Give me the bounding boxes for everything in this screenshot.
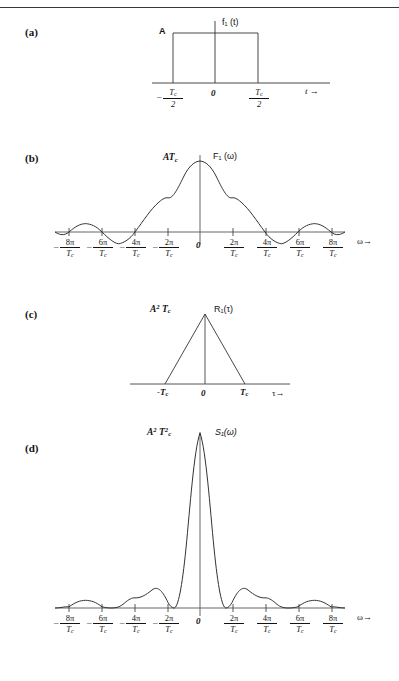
tick-numerator: 4π [257,614,277,623]
panel-b-x-axis-label: ω→ [357,236,372,246]
panel-d-tick-6pi-tc: 6π Tc [290,614,310,635]
tick-denominator: Tc [60,249,80,259]
tick-numerator: 2π [159,238,179,247]
panel-a-plot [0,0,399,140]
panel-b-tick--6pi-tc: – 6π Tc [93,238,113,259]
panel-a: (a) f₁ (t) A – Tc 2 0 Tc [0,0,399,140]
panel-a-tick-pos-half-tc: Tc 2 [249,88,269,109]
tick-denominator: Tc [93,625,113,635]
panel-d-x-axis-label: ω→ [357,612,372,622]
panel-b-tick-8pi-tc: 8π Tc [323,238,343,259]
minus-sign: – [157,92,162,101]
panel-b-amplitude-label: ATc [163,153,178,163]
panel-a-curve-label: f₁ (t) [222,18,239,27]
tick-numerator: 6π [93,614,113,623]
tick-numerator: 4π [126,614,146,623]
tick-denominator: Tc [257,625,277,635]
tick-denominator: Tc [159,249,179,259]
panel-d-zero-label: 0 [196,616,201,626]
panel-b-tick--4pi-tc: – 4π Tc [126,238,146,259]
tick-denominator: Tc [60,625,80,635]
tick-denominator: Tc [323,625,343,635]
panel-b-tick-6pi-tc: 6π Tc [290,238,310,259]
tick-numerator: 6π [290,614,310,623]
panel-b-tick--8pi-tc: – 8π Tc [60,238,80,259]
minus-sign: – [153,242,158,251]
panel-a-tick-neg-half-tc: – Tc 2 [163,88,183,109]
panel-b-tick-2pi-tc: 2π Tc [224,238,244,259]
minus-sign: – [87,242,92,251]
tick-denominator: Tc [290,249,310,259]
panel-b-tick--2pi-tc: – 2π Tc [159,238,179,259]
minus-sign: – [87,618,92,627]
panel-c-tick-neg-tc: -Tc [157,388,168,398]
panel-d-amplitude-label: A2 T2c [147,427,171,438]
figure-root: (a) f₁ (t) A – Tc 2 0 Tc [0,0,399,681]
tick-denominator: 2 [249,100,269,109]
tick-denominator: Tc [290,625,310,635]
panel-b-plot [0,140,399,300]
tick-numerator: 6π [290,238,310,247]
panel-d-tick-8pi-tc: 8π Tc [323,614,343,635]
panel-d-tick-4pi-tc: 4π Tc [257,614,277,635]
tick-numerator: 8π [60,614,80,623]
tick-numerator: Tc [249,88,269,98]
tick-numerator: 8π [60,238,80,247]
panel-c-amplitude-label: A2 Tc [150,304,171,315]
tick-denominator: Tc [93,249,113,259]
panel-c-x-axis-label: τ→ [272,388,285,398]
panel-a-x-axis-label: t → [305,86,319,96]
panel-d-tick--8pi-tc: – 8π Tc [60,614,80,635]
tick-numerator: 8π [323,238,343,247]
panel-d-plot [0,420,399,681]
panel-d-tick--2pi-tc: – 2π Tc [159,614,179,635]
tick-denominator: Tc [126,625,146,635]
minus-sign: – [54,242,59,251]
panel-b-zero-label: 0 [196,240,201,250]
panel-c-tick-pos-tc: Tc [240,388,248,398]
tick-denominator: Tc [257,249,277,259]
panel-c-curve-label: R₁(τ) [214,305,233,314]
tick-denominator: Tc [159,625,179,635]
tick-denominator: Tc [224,625,244,635]
panel-c: (c) R₁(τ) A2 Tc -Tc 0 Tc τ→ [0,300,399,420]
panel-b-tick-4pi-tc: 4π Tc [257,238,277,259]
panel-a-amplitude-label: A [159,27,166,36]
tick-numerator: 2π [159,614,179,623]
tick-numerator: 4π [257,238,277,247]
tick-denominator: Tc [126,249,146,259]
tick-numerator: Tc [163,88,183,98]
tick-numerator: 6π [93,238,113,247]
tick-denominator: Tc [323,249,343,259]
panel-d-tick--4pi-tc: – 4π Tc [126,614,146,635]
panel-c-zero-label: 0 [201,388,206,398]
minus-sign: – [54,618,59,627]
panel-a-zero-label: 0 [211,88,216,98]
panel-d-tick--6pi-tc: – 6π Tc [93,614,113,635]
tick-denominator: Tc [224,249,244,259]
panel-d: (d) [0,420,399,681]
minus-sign: – [120,242,125,251]
tick-numerator: 4π [126,238,146,247]
panel-d-tick-2pi-tc: 2π Tc [224,614,244,635]
tick-numerator: 8π [323,614,343,623]
tick-numerator: 2π [224,238,244,247]
tick-numerator: 2π [224,614,244,623]
minus-sign: – [153,618,158,627]
panel-b: (b) [0,140,399,300]
panel-c-plot [0,300,399,420]
tick-denominator: 2 [163,100,183,109]
panel-d-curve-label: S₁(ω) [215,428,237,437]
panel-b-curve-label: F₁ (ω) [213,152,237,161]
minus-sign: – [120,618,125,627]
